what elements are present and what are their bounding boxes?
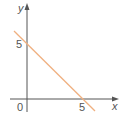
coordinate-graph: y x 0 5 5 [0,0,126,114]
y-axis-label: y [17,2,25,14]
origin-label: 0 [17,101,23,113]
y-axis-arrow-icon [25,3,30,10]
y-tick-label: 5 [16,38,22,50]
x-axis-label: x [111,100,118,112]
x-tick-label: 5 [79,101,85,113]
